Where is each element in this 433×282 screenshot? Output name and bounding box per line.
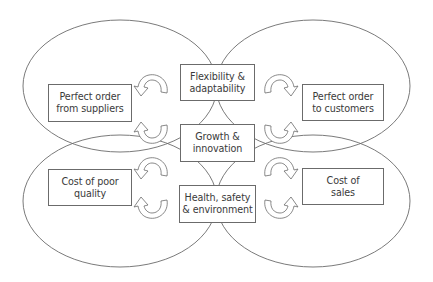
curved-arrow-icon	[265, 197, 298, 218]
box-flexibility-adaptability: Flexibility & adaptability	[180, 64, 255, 101]
curved-arrow-icon	[134, 197, 167, 218]
box-health-safety-environment: Health, safety & environment	[179, 185, 256, 223]
box-perfect-order-from-suppliers: Perfect order from suppliers	[48, 84, 132, 122]
curved-arrow-icon	[134, 158, 167, 179]
box-cost-of-poor-quality: Cost of poor quality	[48, 169, 132, 206]
curved-arrow-icon	[134, 75, 167, 96]
box-growth-innovation: Growth & innovation	[180, 124, 255, 162]
curved-arrow-icon	[265, 122, 298, 143]
box-perfect-order-to-customers: Perfect order to customers	[302, 84, 384, 121]
curved-arrow-icon	[265, 158, 298, 179]
curved-arrow-icon	[134, 122, 167, 143]
box-cost-of-sales: Cost of sales	[302, 168, 384, 205]
curved-arrow-icon	[265, 75, 298, 96]
